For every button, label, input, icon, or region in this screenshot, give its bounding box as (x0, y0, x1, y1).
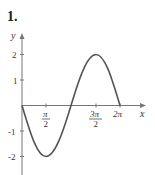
y-tick-label-1: 1 (13, 76, 18, 86)
y-axis-arrow-icon (20, 33, 25, 39)
x-tick-label-pi-over-2-num: π (43, 109, 48, 119)
x-tick-label-pi-over-2-den: 2 (44, 119, 49, 129)
y-tick-label-minus1: -1 (8, 127, 16, 137)
x-tick-label-2pi: 2π (113, 109, 123, 119)
y-axis-label: y (10, 30, 16, 41)
x-tick-label-3pi-over-2-num: 3π (89, 109, 100, 119)
y-tick-label-2: 2 (12, 50, 17, 60)
x-axis-label: x (139, 108, 145, 119)
x-tick-label-3pi-over-2-den: 2 (94, 119, 99, 129)
y-tick-label-minus2: -2 (8, 152, 16, 162)
sine-graph: y x 2 1 -1 -2 π 2 3π 2 2π (0, 0, 155, 175)
